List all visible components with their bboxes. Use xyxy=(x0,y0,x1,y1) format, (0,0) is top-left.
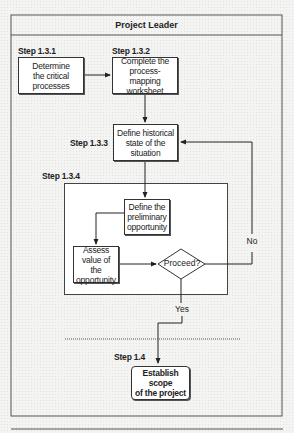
box-line: processes xyxy=(33,81,70,91)
box-line: Establish scope xyxy=(143,368,179,388)
process-box-assess: Assessvalue of theopportunity xyxy=(73,246,119,283)
box-line: Assess xyxy=(83,245,109,255)
decision-label: Proceed? xyxy=(160,258,204,268)
step-label: Step 1.3.2 xyxy=(112,46,150,56)
box-line: preliminary xyxy=(127,212,166,222)
process-box-historical: Define historicalstate of thesituation xyxy=(113,124,178,161)
box-line: process-mapping xyxy=(129,66,160,86)
process-box-establish-scope: Establish scopeof the project xyxy=(131,366,190,400)
process-box-preliminary: Define thepreliminaryopportunity xyxy=(124,199,170,235)
box-line: situation xyxy=(131,148,161,158)
step-label: Step 1.3.1 xyxy=(18,46,56,56)
box-line: of the project xyxy=(135,388,186,398)
step-label: Step 1.4 xyxy=(114,352,145,362)
box-line: Define historical xyxy=(117,128,174,138)
process-box-determine: Determinethe criticalprocesses xyxy=(18,57,84,94)
box-line: state of the xyxy=(126,138,166,148)
box-line: worksheet xyxy=(127,86,164,96)
box-line: value of the xyxy=(82,255,110,275)
process-box-worksheet: Complete theprocess-mappingworksheet xyxy=(112,57,178,94)
branch-yes-label: Yes xyxy=(170,304,194,314)
box-line: the critical xyxy=(33,71,69,81)
box-line: opportunity xyxy=(127,222,167,232)
box-line: Determine xyxy=(32,61,69,71)
step-label: Step 1.3.3 xyxy=(70,138,108,148)
box-line: Define the xyxy=(129,202,166,212)
box-line: Complete the xyxy=(121,56,169,66)
branch-no-label: No xyxy=(244,236,260,246)
box-line: opportunity xyxy=(76,275,116,285)
step-label: Step 1.3.4 xyxy=(42,171,80,181)
swimlane-header: Project Leader xyxy=(11,15,282,35)
